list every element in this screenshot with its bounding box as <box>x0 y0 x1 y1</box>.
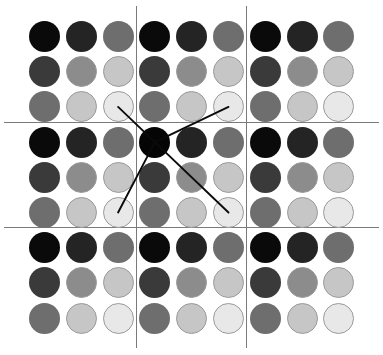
link-segment-4 <box>155 142 229 212</box>
circle-grid-figure <box>0 0 383 355</box>
link-overlay <box>0 0 383 355</box>
link-segment-3 <box>118 142 155 212</box>
link-segment-1 <box>118 107 155 142</box>
link-segment-2 <box>155 107 229 142</box>
